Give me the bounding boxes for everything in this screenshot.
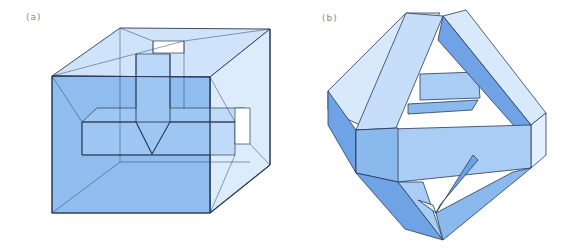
panel-b: (b) [288, 0, 576, 249]
panel-a: (a) [0, 0, 288, 249]
octahedral-bands-figure [288, 0, 576, 249]
tesseract-cube-figure [0, 0, 288, 249]
